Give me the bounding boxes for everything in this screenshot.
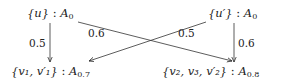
node-set: {v₂, v₃, v′₂} (162, 64, 227, 78)
node-set: {u} (27, 6, 49, 20)
separator: : (58, 64, 69, 78)
node-bottom-right: {v₂, v₃, v′₂} : A0.8 (162, 64, 259, 78)
edge-weight-tr-bl: 0.5 (178, 27, 195, 39)
node-set: {v₁, v′₁} (11, 64, 58, 78)
node-sub: 0.7 (77, 70, 90, 79)
node-label: A (238, 64, 246, 78)
separator: : (49, 6, 60, 20)
edge-weight-tl-bl: 0.5 (29, 37, 46, 49)
edge-weight-tl-br: 0.6 (88, 27, 105, 39)
separator: : (233, 6, 244, 20)
node-top-right: {u′} : A0 (208, 6, 257, 20)
node-sub: 0 (69, 12, 74, 21)
node-sub: 0.8 (247, 70, 260, 79)
node-sub: 0 (252, 12, 257, 21)
edge-weight-tr-br: 0.6 (238, 37, 255, 49)
node-label: A (60, 6, 68, 20)
node-top-left: {u} : A0 (27, 6, 74, 20)
node-bottom-left: {v₁, v′₁} : A0.7 (11, 64, 90, 78)
node-set: {u′} (208, 6, 233, 20)
node-label: A (244, 6, 252, 20)
diagram-canvas: {u} : A0 {u′} : A0 {v₁, v′₁} : A0.7 {v₂,… (0, 0, 291, 83)
separator: : (227, 64, 238, 78)
